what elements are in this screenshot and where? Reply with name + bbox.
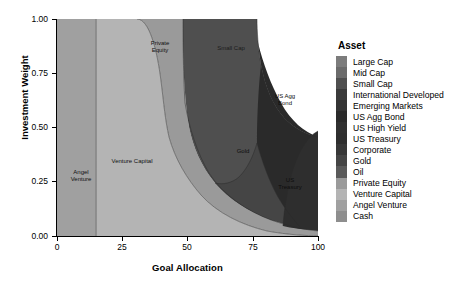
legend-swatch xyxy=(336,144,347,155)
y-tick-075 xyxy=(52,73,56,74)
region-angel-venture xyxy=(57,19,96,236)
legend-item-label: Small Cap xyxy=(353,79,393,89)
legend-swatch xyxy=(336,78,347,89)
legend-item-label: Gold xyxy=(353,156,371,166)
legend-item[interactable]: Emerging Markets xyxy=(336,100,456,111)
x-tick-label-0: 0 xyxy=(37,243,77,252)
legend-item[interactable]: Mid Cap xyxy=(336,67,456,78)
legend-item-label: US High Yield xyxy=(353,123,406,133)
legend-item-label: US Agg Bond xyxy=(353,112,405,122)
legend-swatch xyxy=(336,189,347,200)
x-tick-label-75: 75 xyxy=(233,243,273,252)
x-tick-label-25: 25 xyxy=(102,243,142,252)
legend-swatch xyxy=(336,200,347,211)
legend-item-label: Oil xyxy=(353,167,364,177)
y-tick-025 xyxy=(52,181,56,182)
chart-root: Angel Venture Venture Capital Private Eq… xyxy=(0,0,458,287)
legend-swatch xyxy=(336,178,347,189)
legend-item[interactable]: Venture Capital xyxy=(336,189,456,200)
legend-item-label: Venture Capital xyxy=(353,189,412,199)
legend-swatch xyxy=(336,133,347,144)
y-tick-label-025: 0.25 xyxy=(8,177,48,186)
x-tick-50 xyxy=(187,237,188,241)
legend-swatch xyxy=(336,211,347,222)
legend-swatch xyxy=(336,89,347,100)
legend-item[interactable]: Corporate xyxy=(336,144,456,155)
y-tick-label-000: 0.00 xyxy=(8,232,48,241)
legend-item-label: Mid Cap xyxy=(353,68,385,78)
legend-item-label: Cash xyxy=(353,211,373,221)
legend: Asset Large CapMid CapSmall CapInternati… xyxy=(336,40,456,222)
legend-item[interactable]: Large Cap xyxy=(336,56,456,67)
legend-item-label: Emerging Markets xyxy=(353,101,423,111)
legend-item[interactable]: International Developed xyxy=(336,89,456,100)
x-tick-label-50: 50 xyxy=(167,243,207,252)
legend-item[interactable]: Cash xyxy=(336,211,456,222)
legend-item[interactable]: Oil xyxy=(336,166,456,177)
legend-item[interactable]: US Agg Bond xyxy=(336,111,456,122)
x-axis-title: Goal Allocation xyxy=(57,262,318,273)
stacked-area-svg xyxy=(57,19,318,236)
y-tick-050 xyxy=(52,127,56,128)
plot-area: Angel Venture Venture Capital Private Eq… xyxy=(57,19,318,236)
legend-item[interactable]: Small Cap xyxy=(336,78,456,89)
legend-swatch xyxy=(336,111,347,122)
y-axis-title: Investment Weight xyxy=(19,28,30,168)
legend-item[interactable]: Angel Venture xyxy=(336,200,456,211)
legend-swatch xyxy=(336,155,347,166)
legend-swatch xyxy=(336,56,347,67)
x-tick-75 xyxy=(253,237,254,241)
legend-title: Asset xyxy=(338,40,456,51)
legend-swatch xyxy=(336,100,347,111)
legend-swatch xyxy=(336,67,347,78)
x-tick-label-100: 100 xyxy=(298,243,338,252)
legend-swatch xyxy=(336,122,347,133)
legend-item[interactable]: US Treasury xyxy=(336,133,456,144)
legend-swatch xyxy=(336,166,347,177)
x-tick-100 xyxy=(318,237,319,241)
y-tick-100 xyxy=(52,19,56,20)
legend-item-label: Corporate xyxy=(353,145,391,155)
legend-item-label: Angel Venture xyxy=(353,200,407,210)
legend-items-list: Large CapMid CapSmall CapInternational D… xyxy=(336,56,456,222)
legend-item[interactable]: Gold xyxy=(336,155,456,166)
legend-item-label: US Treasury xyxy=(353,134,401,144)
legend-item[interactable]: US High Yield xyxy=(336,122,456,133)
x-tick-0 xyxy=(57,237,58,241)
y-axis-line xyxy=(56,19,57,237)
y-tick-label-100: 1.00 xyxy=(8,15,48,24)
legend-item-label: Private Equity xyxy=(353,178,406,188)
legend-item-label: International Developed xyxy=(353,90,444,100)
legend-item[interactable]: Private Equity xyxy=(336,178,456,189)
legend-item-label: Large Cap xyxy=(353,57,393,67)
x-tick-25 xyxy=(122,237,123,241)
y-tick-000 xyxy=(52,236,56,237)
